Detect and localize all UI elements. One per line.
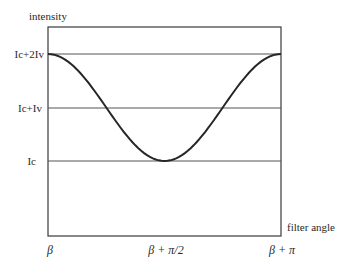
x-tick-beta-plus-half-pi: β + π/2 bbox=[147, 243, 183, 257]
y-axis-title: intensity bbox=[29, 10, 67, 22]
x-tick-beta: β bbox=[46, 243, 53, 257]
y-tick-ic-2iv: Ic+2Iv bbox=[15, 48, 45, 60]
y-tick-ic-iv: Ic+Iv bbox=[18, 102, 42, 114]
y-tick-ic: Ic bbox=[27, 155, 36, 167]
x-tick-beta-plus-pi: β + π bbox=[268, 243, 296, 257]
plot-frame bbox=[48, 27, 281, 236]
x-axis-title: filter angle bbox=[287, 221, 335, 233]
intensity-chart: intensity Ic+2Iv Ic+Iv Ic filter angle β… bbox=[0, 0, 344, 274]
